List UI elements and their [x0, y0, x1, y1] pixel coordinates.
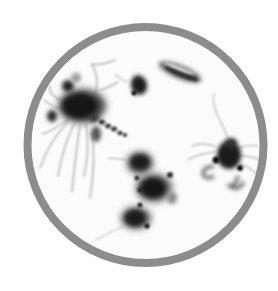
plankton-illustration: [0, 0, 278, 291]
